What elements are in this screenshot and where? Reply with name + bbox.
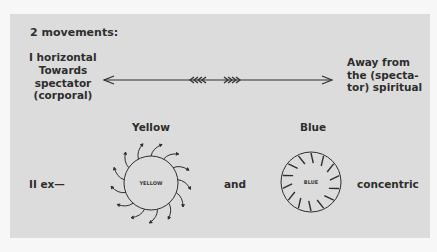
horizontal-double-arrow-icon bbox=[104, 76, 332, 84]
yellow-eccentric-circle-icon: YELLOW bbox=[111, 144, 190, 223]
diagram-graphics: YELLOW BLUE bbox=[0, 0, 437, 252]
blue-circle-label: BLUE bbox=[304, 179, 319, 185]
blue-concentric-circle-icon: BLUE bbox=[281, 152, 341, 212]
yellow-circle-label: YELLOW bbox=[139, 180, 163, 186]
